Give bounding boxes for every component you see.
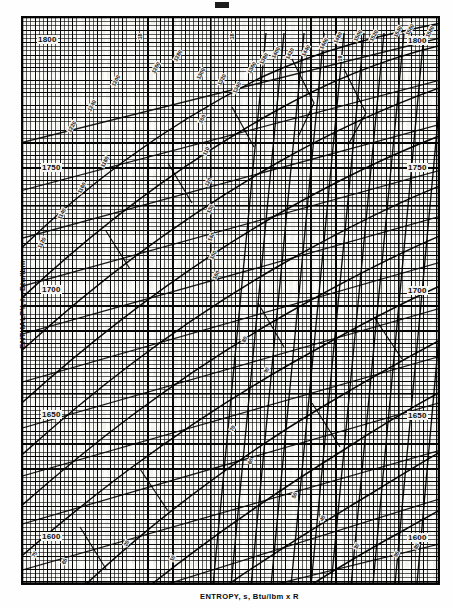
enthalpy-label-right: 1750 <box>407 163 428 172</box>
enthalpy-label-right: 1700 <box>407 286 428 295</box>
enthalpy-label-right: 1600 <box>407 533 428 542</box>
enthalpy-label-right: 1800 <box>407 36 428 45</box>
curve-value-label: 19 <box>337 55 343 62</box>
mollier-chart-plate <box>21 16 440 585</box>
chart-curves <box>22 17 439 584</box>
enthalpy-label-left: 1800 <box>37 35 58 44</box>
enthalpy-label-left: 1600 <box>41 532 62 541</box>
enthalpy-label-right: 1650 <box>407 411 428 420</box>
enthalpy-label-left: 1750 <box>41 163 62 172</box>
chart-page: 1800 1750 1700 1650 1600 1800 1750 1700 … <box>0 0 453 608</box>
y-axis-title: ENTHALPY, h, Btu/lbm <box>18 240 27 370</box>
curve-value-label: 18 <box>137 33 143 40</box>
x-axis-title: ENTROPY, s, Btu/lbm x R <box>0 592 453 601</box>
page-artifact-mark <box>215 2 229 8</box>
enthalpy-label-left: 1650 <box>41 410 62 419</box>
enthalpy-label-left: 1700 <box>41 285 62 294</box>
curve-value-label: 18 <box>229 33 235 40</box>
